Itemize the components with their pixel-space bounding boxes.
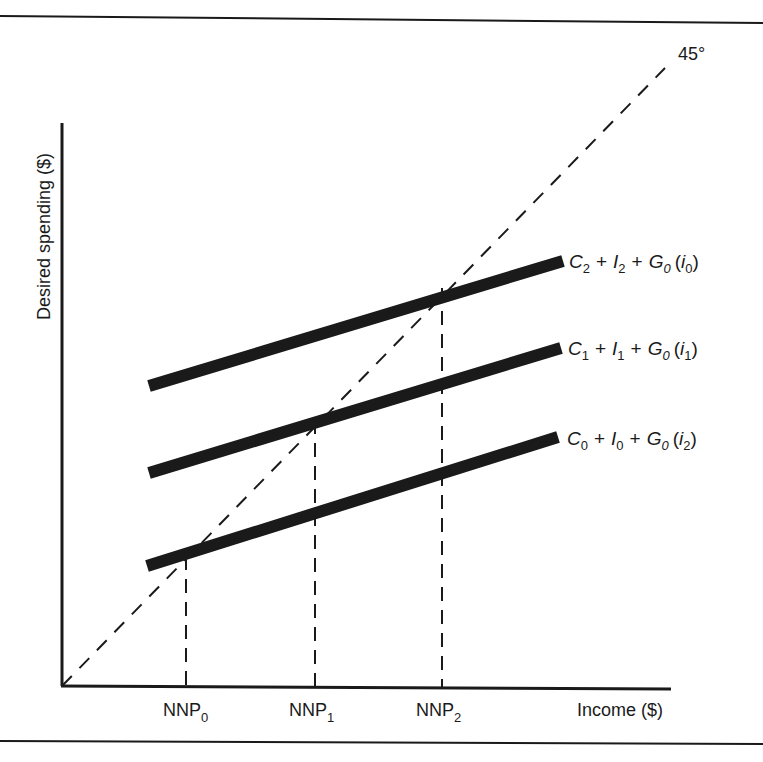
c-subscript: 0 xyxy=(581,438,588,453)
tick-label-nnp0: NNP0 xyxy=(163,700,208,725)
plus-sign: + xyxy=(630,428,641,449)
interest-subscript: 2 xyxy=(683,438,690,453)
g-symbol: G xyxy=(647,428,662,449)
i-subscript: 1 xyxy=(617,348,624,363)
g-symbol: G xyxy=(648,338,663,359)
y-axis-title: Desired spending ($) xyxy=(34,153,54,320)
forty-five-degree-label: 45° xyxy=(678,44,705,64)
keynesian-cross-diagram: 45° Desired spending ($) Income ($) C2+I… xyxy=(0,0,763,762)
plus-sign: + xyxy=(594,428,605,449)
g-subscript: 0 xyxy=(662,348,670,363)
forty-five-degree-line xyxy=(62,68,665,686)
x-axis-title: Income ($) xyxy=(577,700,663,720)
nnp-subscript: 0 xyxy=(201,710,208,725)
c-symbol: C xyxy=(567,428,581,449)
label-upper-line: C2+I2+G0(i0) xyxy=(569,251,699,276)
c-subscript: 2 xyxy=(583,261,590,276)
g-symbol: G xyxy=(649,251,664,272)
bottom-frame-line xyxy=(0,741,763,744)
g-subscript: 0 xyxy=(663,261,671,276)
plus-sign: + xyxy=(631,338,642,359)
plus-sign: + xyxy=(596,251,607,272)
nnp-base: NNP xyxy=(416,700,454,720)
interest-subscript: 1 xyxy=(684,348,691,363)
c-symbol: C xyxy=(569,251,583,272)
plus-sign: + xyxy=(595,338,606,359)
tick-label-nnp2: NNP2 xyxy=(416,700,461,725)
nnp-base: NNP xyxy=(163,700,201,720)
top-frame-line xyxy=(0,16,763,23)
label-lower-line: C0+I0+G0(i2) xyxy=(567,428,697,453)
x-axis xyxy=(61,686,671,689)
plus-sign: + xyxy=(632,251,643,272)
c-symbol: C xyxy=(568,338,582,359)
nnp-subscript: 2 xyxy=(454,710,461,725)
i-subscript: 2 xyxy=(618,261,625,276)
g-subscript: 0 xyxy=(661,438,669,453)
nnp-base: NNP xyxy=(289,700,327,720)
tick-label-nnp1: NNP1 xyxy=(289,700,334,725)
c-subscript: 1 xyxy=(582,348,589,363)
label-middle-line: C1+I1+G0(i1) xyxy=(568,338,698,363)
nnp-subscript: 1 xyxy=(327,710,334,725)
i-subscript: 0 xyxy=(616,438,623,453)
interest-subscript: 0 xyxy=(685,261,692,276)
